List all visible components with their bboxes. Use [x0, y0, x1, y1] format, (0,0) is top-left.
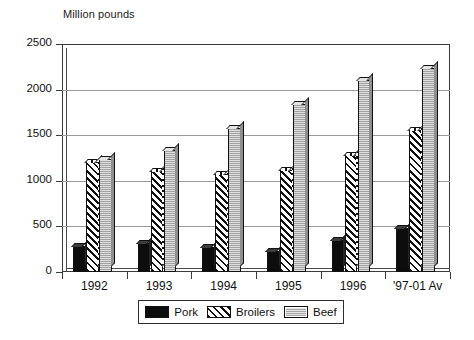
bar-side-face	[434, 61, 438, 267]
y-tick-mark	[56, 44, 62, 45]
x-tick-mark	[256, 272, 257, 279]
bar-beef-9701Av	[422, 68, 435, 272]
x-tick-mark-origin	[62, 272, 63, 279]
x-tick-label: 1993	[127, 279, 192, 293]
bar-top-face	[420, 65, 435, 69]
x-tick-label: 1996	[321, 279, 386, 293]
y-tick-label: 1000	[4, 173, 52, 185]
legend-label-pork: Pork	[174, 306, 198, 318]
bar-side-face	[111, 152, 115, 267]
x-tick-label: 1995	[256, 279, 321, 293]
legend-item-beef: Beef	[284, 306, 337, 318]
legend-swatch-beef	[284, 306, 308, 318]
legend-label-broilers: Broilers	[236, 306, 275, 318]
bar-broilers-1996	[345, 155, 358, 272]
y-tick-mark	[56, 90, 62, 91]
y-tick-label: 2000	[4, 82, 52, 94]
x-tick-label: '97-01 Av	[385, 279, 450, 293]
bar-top-face	[407, 127, 422, 131]
bar-broilers-9701Av	[409, 130, 422, 272]
chart-canvas: Million pounds 05001000150020002500 1992…	[0, 0, 474, 340]
y-tick-label: 2500	[4, 36, 52, 48]
legend-swatch-pork	[145, 306, 169, 318]
y-tick-label: 500	[4, 218, 52, 230]
bar-pork-1992	[73, 246, 86, 272]
bar-top-face	[265, 248, 280, 252]
y-tick-label: 1500	[4, 127, 52, 139]
chart-legend: Pork Broilers Beef	[138, 300, 344, 324]
bar-side-face	[369, 73, 373, 267]
bar-beef-1993	[164, 150, 177, 272]
y-tick-label: 0	[4, 264, 52, 276]
bar-beef-1995	[293, 104, 306, 272]
bar-top-face	[213, 171, 228, 175]
bar-broilers-1994	[215, 174, 228, 272]
bar-broilers-1992	[86, 162, 99, 272]
bar-pork-1994	[202, 247, 215, 272]
y-tick-mark	[56, 181, 62, 182]
gridline	[62, 90, 450, 91]
bar-side-face	[175, 143, 179, 267]
x-tick-mark	[450, 272, 451, 279]
bar-pork-1995	[267, 251, 280, 272]
bar-pork-1996	[332, 240, 345, 272]
x-tick-mark	[321, 272, 322, 279]
chart-title: Million pounds	[63, 8, 135, 20]
gridline	[62, 135, 450, 136]
legend-item-broilers: Broilers	[207, 306, 275, 318]
x-tick-mark	[191, 272, 192, 279]
legend-label-beef: Beef	[313, 306, 337, 318]
bar-broilers-1993	[151, 171, 164, 272]
x-tick-label: 1994	[191, 279, 256, 293]
bar-beef-1992	[99, 159, 112, 272]
x-tick-mark	[385, 272, 386, 279]
bar-pork-9701Av	[396, 228, 409, 272]
legend-item-pork: Pork	[145, 306, 198, 318]
bar-side-face	[305, 97, 309, 267]
bar-beef-1996	[358, 80, 371, 272]
x-tick-mark	[127, 272, 128, 279]
legend-swatch-broilers	[207, 306, 231, 318]
plot-inner-bottom-edge	[66, 268, 450, 269]
bar-beef-1994	[228, 128, 241, 272]
plot-area	[62, 44, 450, 272]
y-tick-mark	[56, 226, 62, 227]
gridline	[62, 226, 450, 227]
plot-inner-left-edge	[66, 48, 67, 272]
gridline	[62, 181, 450, 182]
x-tick-label: 1992	[62, 279, 127, 293]
bar-top-face	[97, 156, 112, 160]
bar-top-face	[278, 167, 293, 171]
bar-side-face	[240, 121, 244, 267]
y-tick-mark	[56, 135, 62, 136]
bar-pork-1993	[138, 243, 151, 272]
bar-broilers-1995	[280, 170, 293, 272]
